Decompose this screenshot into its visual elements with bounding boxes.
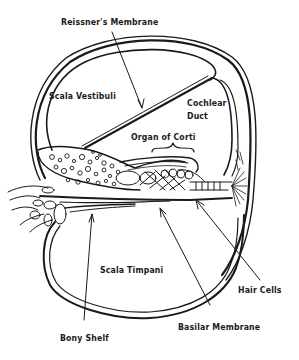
label-scala-vestibuli: Scala Vestibuli	[49, 91, 116, 101]
label-reissners-membrane: Reissner's Membrane	[61, 17, 158, 27]
cochlea-diagram: Reissner's Membrane Scala Vestibuli Coch…	[0, 0, 299, 360]
leader-reissners	[112, 32, 142, 108]
nerve-fibers	[8, 186, 66, 232]
label-bony-shelf: Bony Shelf	[60, 333, 109, 343]
label-cochlear-duct-line1: Cochlear	[187, 98, 227, 108]
basilar-membrane	[40, 196, 232, 200]
label-cochlear-duct-line2: Duct	[187, 111, 208, 121]
label-hair-cells: Hair Cells	[238, 285, 282, 295]
organ-of-corti-brace	[152, 143, 194, 152]
label-basilar-membrane: Basilar Membrane	[178, 322, 260, 332]
spiral-ligament	[232, 150, 247, 206]
leader-basilar	[160, 208, 210, 305]
leader-lines	[84, 32, 260, 320]
organ-of-corti-cells	[116, 169, 193, 190]
cochlea-illustration	[0, 0, 299, 360]
label-organ-of-corti: Organ of Corti	[131, 132, 196, 142]
bony-shelf	[65, 204, 135, 208]
label-scala-timpani: Scala Timpani	[100, 265, 163, 275]
